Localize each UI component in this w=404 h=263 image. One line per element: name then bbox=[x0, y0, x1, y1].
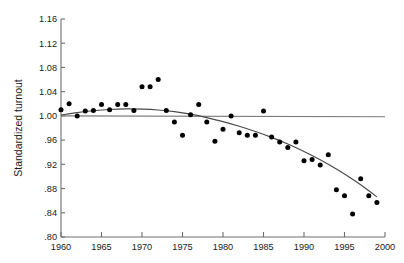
data-point bbox=[156, 77, 161, 82]
x-tick-label: 1990 bbox=[294, 242, 314, 252]
scatter-points bbox=[59, 77, 380, 216]
data-point bbox=[172, 119, 177, 124]
data-point bbox=[261, 109, 266, 114]
y-tick-label: 1.08 bbox=[39, 63, 57, 73]
data-point bbox=[237, 130, 242, 135]
y-tick-label: .92 bbox=[44, 160, 57, 170]
data-point bbox=[318, 162, 323, 167]
x-tick-label: 1970 bbox=[132, 242, 152, 252]
y-tick-label: 1.04 bbox=[39, 87, 57, 97]
x-tick-group: 196019651970197519801985199019952000 bbox=[51, 232, 395, 252]
data-point bbox=[302, 158, 307, 163]
data-point bbox=[310, 157, 315, 162]
standardized-turnout-chart: 1.161.121.081.041.00.96.92.88.84.80 1960… bbox=[0, 0, 404, 263]
data-point bbox=[253, 133, 258, 138]
x-tick-label: 1960 bbox=[51, 242, 71, 252]
data-point bbox=[164, 108, 169, 113]
data-point bbox=[212, 139, 217, 144]
data-point bbox=[107, 107, 112, 112]
data-point bbox=[245, 133, 250, 138]
data-point bbox=[277, 139, 282, 144]
data-point bbox=[342, 193, 347, 198]
data-point bbox=[221, 127, 226, 132]
data-point bbox=[269, 135, 274, 140]
x-tick-label: 1995 bbox=[334, 242, 354, 252]
data-point bbox=[148, 84, 153, 89]
x-tick-label: 1965 bbox=[91, 242, 111, 252]
data-point bbox=[293, 139, 298, 144]
data-point bbox=[326, 152, 331, 157]
y-tick-label: .84 bbox=[44, 208, 57, 218]
y-tick-label: .88 bbox=[44, 184, 57, 194]
data-point bbox=[67, 101, 72, 106]
data-point bbox=[59, 107, 64, 112]
data-point bbox=[334, 187, 339, 192]
data-point bbox=[285, 145, 290, 150]
data-point bbox=[196, 102, 201, 107]
y-tick-label: 1.12 bbox=[39, 39, 57, 49]
data-point bbox=[99, 102, 104, 107]
data-point bbox=[188, 112, 193, 117]
y-tick-label: .80 bbox=[44, 232, 57, 242]
data-point bbox=[366, 193, 371, 198]
data-point bbox=[204, 119, 209, 124]
data-point bbox=[229, 113, 234, 118]
data-point bbox=[358, 176, 363, 181]
x-tick-label: 2000 bbox=[375, 242, 395, 252]
chart-container: 1.161.121.081.041.00.96.92.88.84.80 1960… bbox=[0, 0, 404, 263]
data-point bbox=[83, 109, 88, 114]
data-point bbox=[131, 108, 136, 113]
reference-line-path bbox=[61, 116, 385, 117]
y-tick-label: .96 bbox=[44, 135, 57, 145]
y-tick-label: 1.16 bbox=[39, 14, 57, 24]
reference-line bbox=[61, 116, 385, 117]
data-point bbox=[374, 200, 379, 205]
data-point bbox=[91, 108, 96, 113]
data-point bbox=[123, 102, 128, 107]
data-point bbox=[140, 84, 145, 89]
data-point bbox=[350, 211, 355, 216]
x-tick-label: 1975 bbox=[172, 242, 192, 252]
data-point bbox=[75, 113, 80, 118]
x-tick-label: 1985 bbox=[253, 242, 273, 252]
y-axis-title: Standardized turnout bbox=[12, 79, 24, 177]
y-axis: 1.161.121.081.041.00.96.92.88.84.80 bbox=[39, 14, 65, 242]
data-point bbox=[180, 133, 185, 138]
x-axis: 196019651970197519801985199019952000 bbox=[51, 232, 395, 252]
y-tick-label: 1.00 bbox=[39, 111, 57, 121]
x-tick-label: 1980 bbox=[213, 242, 233, 252]
data-point bbox=[115, 102, 120, 107]
